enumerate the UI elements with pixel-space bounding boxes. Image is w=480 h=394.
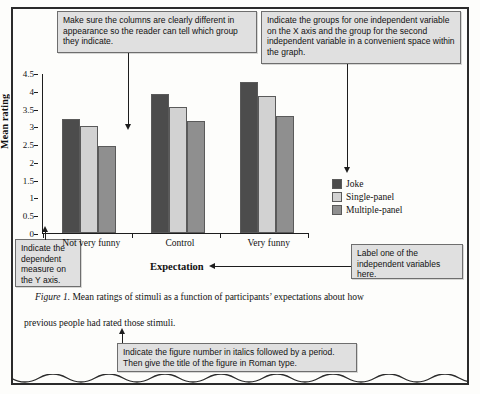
legend-item: Single-panel — [332, 191, 402, 203]
y-tick-label: 1.5 — [23, 176, 34, 185]
y-tick-label: 3.5 — [23, 105, 34, 114]
y-tick-mark — [34, 198, 38, 199]
x-tick-mark — [308, 233, 309, 238]
x-tick-mark — [220, 233, 221, 238]
page-root: Make sure the columns are clearly differ… — [0, 0, 480, 394]
chart-plot-area: Not very funnyControlVery funny — [42, 74, 308, 234]
legend-swatch-icon — [332, 192, 342, 202]
legend-label: Single-panel — [346, 192, 394, 202]
y-tick-label: 4.5 — [23, 70, 34, 79]
y-tick-label: 2.5 — [23, 141, 34, 150]
bar-multiple-panel — [187, 121, 205, 233]
connector-groups-arrowhead — [344, 167, 350, 173]
y-tick-mark — [34, 110, 38, 111]
y-axis-ticks: 4.543.532.521.510.50 — [12, 74, 38, 234]
x-tick-mark — [132, 233, 133, 238]
bar-group — [151, 74, 209, 233]
bar-group — [62, 74, 120, 233]
legend-swatch-icon — [332, 205, 342, 215]
bar-multiple-panel — [276, 116, 294, 233]
y-tick-mark — [34, 92, 38, 93]
legend-label: Joke — [346, 179, 363, 189]
bar-joke — [151, 94, 169, 233]
connector-label-iv-line — [215, 266, 351, 267]
x-tick-label: Not very funny — [51, 238, 131, 249]
x-tick-mark — [43, 233, 44, 238]
legend-swatch-icon — [332, 179, 342, 189]
y-tick-label: 0.5 — [23, 212, 34, 221]
y-tick-mark — [34, 74, 38, 75]
bar-single-panel — [258, 96, 276, 233]
y-tick-mark — [34, 127, 38, 128]
connector-figure-number-arrowhead — [119, 328, 125, 334]
callout-figure-number: Indicate the figure number in italics fo… — [117, 343, 357, 372]
bar-joke — [240, 82, 258, 233]
y-tick-mark — [34, 181, 38, 182]
callout-columns-appearance: Make sure the columns are clearly differ… — [57, 11, 257, 53]
connector-groups-line — [347, 64, 348, 169]
figure-caption-line2: previous people had rated those stimuli. — [24, 318, 434, 328]
y-tick-mark — [34, 216, 38, 217]
legend-item: Joke — [332, 178, 402, 190]
bar-multiple-panel — [98, 146, 116, 233]
connector-label-iv-arrowhead — [209, 263, 215, 269]
x-tick-label: Very funny — [229, 238, 309, 249]
y-tick-mark — [34, 145, 38, 146]
bar-single-panel — [80, 126, 98, 233]
bar-joke — [62, 119, 80, 233]
figure-caption: Figure 1. Mean ratings of stimuli as a f… — [35, 292, 445, 303]
figure-caption-text: Mean ratings of stimuli as a function of… — [70, 292, 364, 302]
legend-label: Multiple-panel — [346, 205, 402, 215]
bar-single-panel — [169, 107, 187, 233]
y-tick-mark — [34, 163, 38, 164]
y-tick-mark — [34, 234, 38, 235]
page-tear-wave — [11, 374, 469, 388]
chart-legend: JokeSingle-panelMultiple-panel — [332, 178, 402, 217]
x-tick-label: Control — [140, 238, 220, 249]
legend-item: Multiple-panel — [332, 204, 402, 216]
callout-label-independent-variable: Label one of the independent variables h… — [351, 244, 463, 279]
x-axis-title: Expectation — [150, 261, 204, 272]
figure-caption-number: Figure 1. — [35, 292, 70, 302]
bar-group — [240, 74, 298, 233]
callout-groups-independent-variable: Indicate the groups for one independent … — [261, 11, 461, 64]
